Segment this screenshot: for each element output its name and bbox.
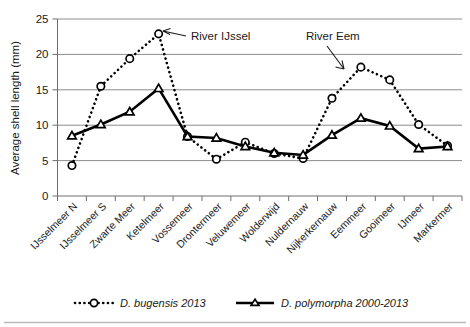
y-tick-label: 5 [42,155,48,167]
x-axis-tick-marks [58,196,463,201]
y-tick-label: 0 [42,190,48,202]
legend-marker-triangle-icon [251,299,259,305]
legend-marker-circle-icon [90,299,97,306]
legend-label-polymorpha: D. polymorpha 2000-2013 [281,297,409,309]
data-point-polymorpha [212,134,221,141]
data-point-bugensis [213,155,220,162]
data-point-polymorpha [357,114,366,121]
data-point-bugensis [126,55,133,62]
chart-container: 0510152025 Average shell length (mm) IJs… [0,0,470,327]
data-point-bugensis [386,76,393,83]
annotation-river-eem: River Eem [306,30,360,42]
data-series-layer [68,30,452,169]
annotation-arrow-ijssel [163,31,186,36]
shell-length-line-chart: 0510152025 Average shell length (mm) IJs… [0,0,470,327]
y-tick-label: 20 [36,48,49,60]
chart-annotations: River IJssel River Eem [163,29,360,70]
chart-legend: D. bugensis 2013 D. polymorpha 2000-2013 [75,297,409,309]
data-point-bugensis [328,95,335,102]
legend-item-bugensis[interactable]: D. bugensis 2013 [75,297,206,309]
data-point-polymorpha [385,122,394,129]
y-tick-label: 25 [36,13,49,25]
annotation-arrow-eem [327,46,344,69]
data-point-bugensis [68,162,75,169]
y-axis-tick-labels: 0510152025 [36,13,49,202]
legend-item-polymorpha[interactable]: D. polymorpha 2000-2013 [236,297,409,309]
axis-lines [58,19,463,196]
y-tick-label: 10 [36,119,49,131]
data-point-bugensis [415,121,422,128]
gridlines [53,19,463,196]
legend-label-bugensis: D. bugensis 2013 [120,297,206,309]
data-point-bugensis [155,30,162,37]
y-tick-label: 15 [36,84,49,96]
annotation-river-ijssel: River IJssel [191,30,250,42]
data-point-polymorpha [270,149,279,156]
series-line-polymorpha [72,88,448,155]
data-point-bugensis [357,63,364,70]
series-line-bugensis [72,34,448,166]
data-point-polymorpha [68,132,77,139]
data-point-polymorpha [97,120,106,127]
y-axis-title: Average shell length (mm) [9,41,21,175]
data-point-polymorpha [154,84,163,91]
data-point-bugensis [97,83,104,90]
x-axis-category-labels: IJsselmeer NIJsselmeer SZwarte MeerKetel… [28,200,456,256]
